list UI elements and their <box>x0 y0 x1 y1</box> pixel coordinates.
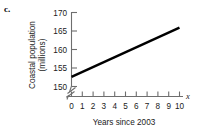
x-tick-label: 1 <box>80 102 85 111</box>
x-tick-label: 2 <box>91 102 96 111</box>
x-tick-label: 0 <box>69 102 74 111</box>
x-tick-label: 8 <box>156 102 161 111</box>
y-axis-title: Coastal population (millions) <box>28 21 47 89</box>
y-axis-title-line2: (millions) <box>38 38 47 71</box>
x-tick-labels: 0 1 2 3 4 5 6 7 8 9 10 <box>69 102 184 111</box>
x-tick-label: 5 <box>123 102 128 111</box>
figure-container: c. 170 165 160 155 150 <box>0 0 197 130</box>
x-axis-variable-label: x <box>185 91 190 101</box>
y-tick-label: 170 <box>53 9 67 18</box>
x-tick-marks <box>72 92 180 97</box>
x-tick-label: 6 <box>134 102 139 111</box>
x-tick-label: 4 <box>112 102 117 111</box>
y-tick-label: 160 <box>53 46 67 55</box>
y-tick-label: 155 <box>53 64 67 73</box>
y-axis-title-line1: Coastal population <box>28 21 37 89</box>
y-tick-label: 150 <box>53 83 67 92</box>
y-tick-label: 165 <box>53 27 67 36</box>
x-tick-label: 7 <box>145 102 150 111</box>
x-tick-label: 9 <box>166 102 171 111</box>
x-axis-title: Years since 2003 <box>93 118 156 127</box>
data-series-line <box>72 28 180 77</box>
chart-plot: 170 165 160 155 150 0 1 2 3 4 5 <box>0 0 197 130</box>
x-tick-label: 3 <box>102 102 107 111</box>
y-axis-break-segment-lower <box>67 95 69 100</box>
x-tick-label: 10 <box>175 102 185 111</box>
y-tick-labels: 170 165 160 155 150 <box>53 9 67 92</box>
